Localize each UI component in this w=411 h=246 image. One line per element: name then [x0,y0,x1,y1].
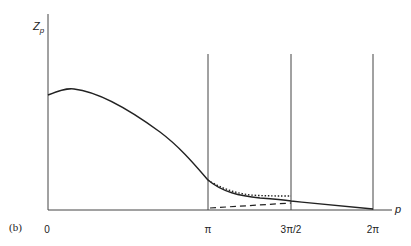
x-tick-2pi: 2π [367,224,380,235]
x-tick-0: 0 [44,224,50,235]
x-tick-pi: π [205,224,212,235]
y-axis-label: Zp [32,20,45,35]
series-dashed [210,203,291,208]
series-solid [48,89,373,209]
panel-label: (b) [9,221,22,234]
chart: Zp p 0 π 3π/2 2π (b) [0,0,411,246]
x-tick-3pi-2: 3π/2 [281,224,302,235]
x-axis-label: p [394,203,401,215]
